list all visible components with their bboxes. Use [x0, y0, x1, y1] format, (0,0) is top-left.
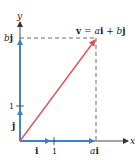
i-unit-arrowhead: [45, 138, 51, 144]
y-axis-label: y: [16, 11, 23, 21]
y-tick-label: 1: [9, 102, 14, 111]
j-unit-arrowhead: [17, 109, 23, 115]
x-axis-label: x: [130, 136, 135, 146]
x-tick-label: 1: [52, 147, 57, 156]
ai-label: ai: [90, 146, 99, 156]
j-unit-label: j: [11, 121, 15, 131]
bj-label: bj: [4, 33, 13, 43]
i-unit-label: i: [35, 146, 39, 156]
vector-v: [20, 40, 95, 141]
vector-equation-label: v = ai + bj: [75, 26, 126, 36]
vector-diagram: y x bj 1 j i 1 ai v = ai + bj: [0, 0, 140, 160]
diagram-canvas: y x bj 1 j i 1 ai v = ai + bj: [0, 0, 140, 160]
